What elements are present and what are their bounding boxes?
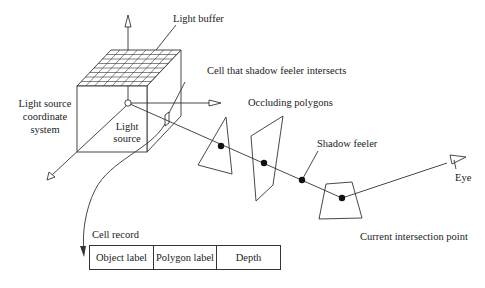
intersected-cell-icon [165, 112, 169, 126]
cell-record-label: Cell record [92, 229, 139, 241]
light-source-icon [125, 100, 131, 106]
record-field-depth: Depth [217, 246, 280, 269]
eye-label: Eye [455, 172, 471, 184]
occluding-polygon-2 [251, 116, 283, 201]
light-coord-label-2: coordinate [10, 111, 80, 123]
record-field-polygon-label: Polygon label [154, 246, 217, 269]
light-coord-label-3: system [10, 124, 80, 136]
leader-light-buffer [156, 25, 176, 50]
leader-shadow-feeler [302, 151, 318, 180]
cell-record-table: Object label Polygon label Depth [89, 245, 281, 270]
current-intersection-label: Current intersection point [360, 231, 468, 243]
occluding-polygon-1 [198, 117, 232, 174]
eye-icon [450, 155, 466, 169]
occluding-polygons-label: Occluding polygons [248, 97, 333, 109]
shadow-feeler-label: Shadow feeler [317, 138, 377, 150]
record-field-object-label: Object label [90, 246, 154, 269]
light-buffer-label: Light buffer [173, 13, 224, 25]
light-source-label-2: source [110, 133, 144, 145]
cell-intersect-label: Cell that shadow feeler intersects [207, 65, 346, 77]
light-coord-label-1: Light source [10, 98, 80, 110]
light-source-label-1: Light [110, 121, 144, 133]
